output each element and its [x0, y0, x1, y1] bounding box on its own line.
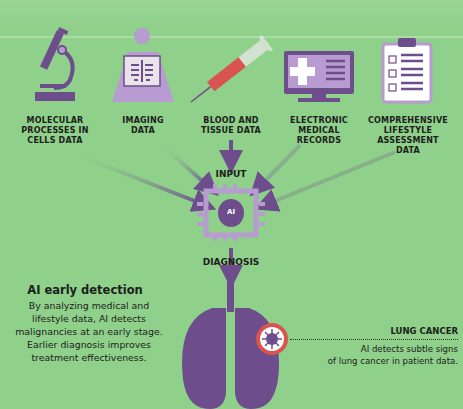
label-line: CELLS DATA	[20, 136, 90, 146]
diagnosis-label: DIAGNOSIS	[196, 257, 266, 267]
label-line: ASSESSMENT	[368, 136, 448, 146]
source-label-lifestyle: COMPREHENSIVE LIFESTYLE ASSESSMENT DATA	[368, 116, 448, 156]
callout-line: of lung cancer in patient data.	[300, 355, 458, 367]
callout-leader-line	[290, 339, 458, 340]
summary-heading: AI early detection	[20, 283, 150, 297]
label-line: MEDICAL	[284, 126, 354, 136]
monitor-medical-icon	[284, 51, 354, 102]
syringe-icon	[185, 35, 273, 109]
microscope-icon	[35, 27, 75, 101]
label-line: MOLECULAR	[20, 116, 90, 126]
label-line: COMPREHENSIVE	[368, 116, 448, 126]
cancer-cell-icon	[256, 323, 288, 355]
label-line: IMAGING	[113, 116, 173, 126]
infographic: MOLECULAR PROCESSES IN CELLS DATA IMAGIN…	[0, 0, 463, 409]
clipboard-checklist-icon	[383, 38, 431, 102]
summary-line: lifestyle data, AI detects	[14, 312, 164, 325]
ai-chip-label: AI	[221, 208, 241, 216]
summary-line: treatment effectiveness.	[14, 351, 164, 364]
source-label-blood: BLOOD AND TISSUE DATA	[196, 116, 266, 136]
callout-text: AI detects subtle signs of lung cancer i…	[300, 343, 458, 367]
label-line: PROCESSES IN	[20, 126, 90, 136]
source-label-imaging: IMAGING DATA	[113, 116, 173, 136]
input-label: INPUT	[206, 169, 256, 179]
summary-line: malignancies at an early stage.	[14, 325, 164, 338]
callout-title: LUNG CANCER	[330, 326, 458, 336]
xray-icon	[112, 28, 174, 102]
source-label-molecular: MOLECULAR PROCESSES IN CELLS DATA	[20, 116, 90, 146]
label-line: TISSUE DATA	[196, 126, 266, 136]
label-line: DATA	[113, 126, 173, 136]
summary-text: By analyzing medical and lifestyle data,…	[14, 299, 164, 364]
label-line: RECORDS	[284, 136, 354, 146]
summary-line: Earlier diagnosis improves	[14, 338, 164, 351]
summary-line: By analyzing medical and	[14, 299, 164, 312]
label-line: BLOOD AND	[196, 116, 266, 126]
label-line: LIFESTYLE	[368, 126, 448, 136]
label-line: ELECTRONIC	[284, 116, 354, 126]
source-label-emr: ELECTRONIC MEDICAL RECORDS	[284, 116, 354, 146]
label-line: DATA	[368, 146, 448, 156]
callout-line: AI detects subtle signs	[300, 343, 458, 355]
